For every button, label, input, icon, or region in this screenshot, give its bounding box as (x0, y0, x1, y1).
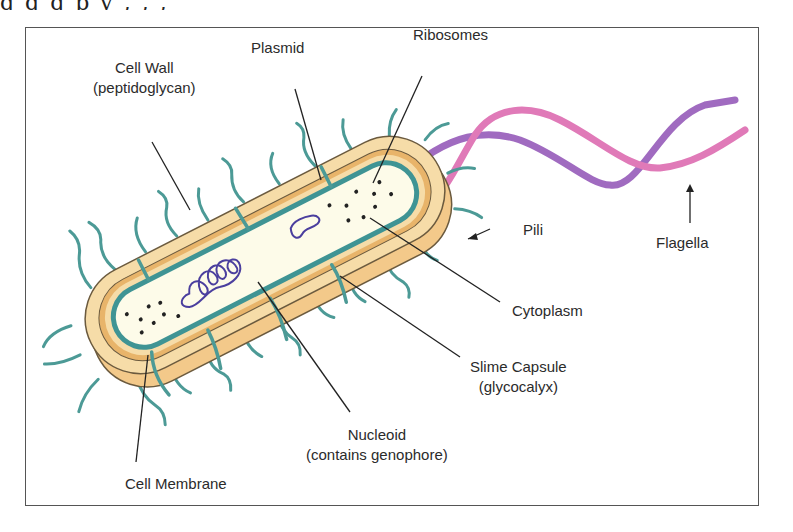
label-nucleoid: Nucleoid (contains genophore) (306, 425, 448, 465)
label-text: (peptidoglycan) (93, 78, 196, 98)
label-cytoplasm: Cytoplasm (512, 301, 583, 321)
label-text: Flagella (656, 233, 709, 253)
label-text: (glycocalyx) (470, 377, 567, 397)
label-text: Pili (523, 220, 543, 240)
label-text: Cytoplasm (512, 301, 583, 321)
label-pili: Pili (523, 220, 543, 240)
label-text: Slime Capsule (470, 357, 567, 377)
label-text: Nucleoid (306, 425, 448, 445)
label-text: Cell Wall (93, 58, 196, 78)
label-text: Ribosomes (413, 25, 488, 45)
label-plasmid: Plasmid (251, 38, 304, 58)
label-ribosomes: Ribosomes (413, 25, 488, 45)
label-cell-wall: Cell Wall (peptidoglycan) (93, 58, 196, 98)
label-flagella: Flagella (656, 233, 709, 253)
label-cell-membrane: Cell Membrane (125, 474, 227, 494)
label-text: Plasmid (251, 38, 304, 58)
label-text: Cell Membrane (125, 474, 227, 494)
label-text: (contains genophore) (306, 445, 448, 465)
label-slime-capsule: Slime Capsule (glycocalyx) (470, 357, 567, 397)
